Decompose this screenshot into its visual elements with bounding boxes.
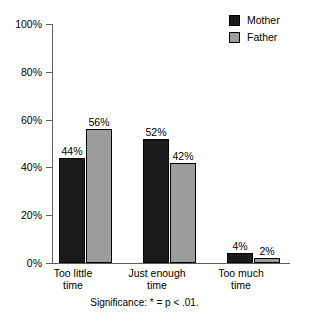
bar-value-mother-too-little-time: 44% [59, 146, 85, 157]
y-tick-label-40: 40% [0, 162, 42, 172]
y-tick-0 [46, 263, 52, 264]
bar-father-too-little-time[interactable] [86, 129, 112, 263]
bar-father-too-much-time[interactable] [254, 258, 280, 263]
bar-father-just-enough-time[interactable] [170, 163, 196, 263]
plot-area: 44% 56% 52% 42% 4% 2% [52, 24, 290, 263]
bar-chart-figure: Mother Father 100% 80% 60% 40% 20% 0% 44… [0, 0, 309, 316]
x-axis-line [52, 263, 290, 264]
category-label-too-much-time: Too much time [198, 267, 284, 291]
bar-value-father-just-enough-time: 42% [170, 151, 196, 162]
y-tick-label-100: 100% [0, 19, 42, 29]
category-label-just-enough-time: Just enough time [114, 267, 200, 291]
category-label-too-little-time-line2: time [30, 279, 116, 291]
category-label-too-much-time-line1: Too much [198, 267, 284, 279]
category-label-too-little-time: Too little time [30, 267, 116, 291]
bar-mother-too-much-time[interactable] [227, 253, 253, 263]
category-label-just-enough-time-line1: Just enough [114, 267, 200, 279]
bar-mother-just-enough-time[interactable] [143, 139, 169, 263]
y-tick-label-20: 20% [0, 210, 42, 220]
bar-mother-too-little-time[interactable] [59, 158, 85, 263]
bar-value-father-too-much-time: 2% [254, 246, 280, 257]
category-label-just-enough-time-line2: time [114, 279, 200, 291]
category-label-too-little-time-line1: Too little [30, 267, 116, 279]
chart-footnote: Significance: * = p < .01. [0, 297, 289, 309]
bar-value-mother-just-enough-time: 52% [143, 127, 169, 138]
bar-value-father-too-little-time: 56% [86, 117, 112, 128]
category-label-too-much-time-line2: time [198, 279, 284, 291]
y-tick-label-80: 80% [0, 67, 42, 77]
y-tick-label-60: 60% [0, 115, 42, 125]
bar-value-mother-too-much-time: 4% [227, 241, 253, 252]
